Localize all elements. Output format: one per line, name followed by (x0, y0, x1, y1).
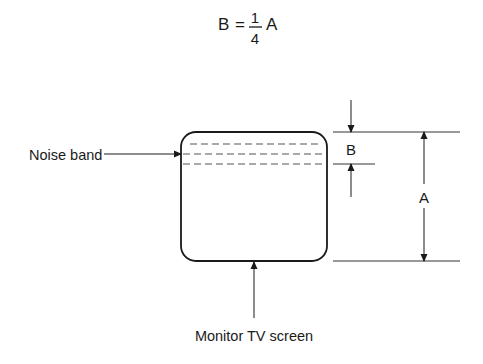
monitor-label: Monitor TV screen (195, 328, 313, 344)
formula-rhs: A (266, 15, 278, 34)
noise-band-lines (183, 144, 325, 164)
noise-band-label: Noise band (29, 147, 102, 163)
formula-lhs: B (218, 15, 229, 34)
formula-numerator: 1 (251, 9, 259, 26)
a-dimension-label: A (419, 189, 429, 206)
b-dimension-label: B (346, 141, 356, 158)
noise-band-diagram: B = 1 4 A Noise band B A Monitor TV scre… (0, 0, 483, 364)
formula-denominator: 4 (251, 30, 259, 47)
monitor-screen (181, 132, 327, 261)
formula: B = 1 4 A (218, 9, 278, 47)
formula-equals: = (235, 15, 245, 34)
